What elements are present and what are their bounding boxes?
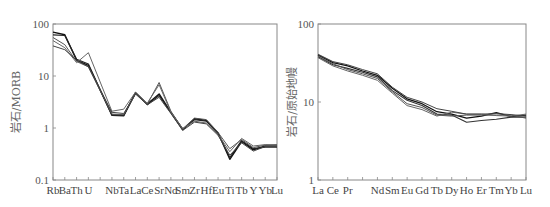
x-tick-label: Sm — [385, 184, 400, 196]
x-tick-label: Tb — [236, 184, 249, 196]
y-axis-ticks: 100101 — [298, 18, 322, 186]
x-tick-label: Er — [476, 184, 487, 196]
x-tick-label: Yb — [504, 184, 518, 196]
y-tick-label: 1 — [44, 122, 50, 134]
x-tick-label: Ti — [225, 184, 234, 196]
y-axis-label: 岩石/原始地幔 — [285, 67, 299, 137]
x-tick-label: Dy — [445, 184, 459, 196]
x-tick-label: Eu — [401, 184, 414, 196]
y-axis-ticks: 1001010.1 — [33, 18, 57, 186]
x-tick-label: Lu — [520, 184, 533, 196]
x-tick-label: Tm — [489, 184, 505, 196]
x-tick-label: Eu — [212, 184, 225, 196]
y-tick-label: 10 — [38, 70, 50, 82]
x-tick-label: Tb — [431, 184, 444, 196]
primitive-mantle-ree-diagram: 100101 LaCePrNdSmEuGdTbDyHoErTmYbLu 岩石/原… — [285, 18, 533, 196]
x-tick-label: Hf — [200, 184, 212, 196]
y-tick-label: 10 — [303, 96, 315, 108]
y-tick-label: 100 — [33, 18, 50, 30]
x-tick-label: Sm — [175, 184, 190, 196]
series-line — [318, 54, 526, 116]
series-line — [318, 55, 526, 118]
x-tick-label: Th — [70, 184, 83, 196]
x-tick-label: Sr — [154, 184, 164, 196]
x-tick-label: Nd — [371, 184, 385, 196]
y-axis-label: 岩石/MORB — [9, 71, 23, 133]
x-tick-label: Ce — [327, 184, 339, 196]
y-tick-label: 100 — [298, 18, 315, 30]
x-tick-label: U — [84, 184, 92, 196]
x-tick-label: La — [130, 184, 142, 196]
x-tick-label: Ce — [141, 184, 153, 196]
chart-canvas: 1001010.1 RbBaThUNbTaLaCeSrNdSmZrHfEuTiT… — [0, 0, 550, 207]
x-tick-label: Ta — [118, 184, 129, 196]
data-series — [53, 32, 277, 159]
x-tick-label: Lu — [271, 184, 284, 196]
data-series — [318, 54, 526, 122]
x-tick-label: Ho — [460, 184, 474, 196]
series-line — [53, 46, 277, 155]
x-tick-label: Zr — [189, 184, 200, 196]
morb-spider-diagram: 1001010.1 RbBaThUNbTaLaCeSrNdSmZrHfEuTiT… — [9, 18, 284, 196]
x-tick-label: Ba — [59, 184, 71, 196]
x-tick-label: Y — [249, 184, 257, 196]
x-tick-label: La — [312, 184, 324, 196]
x-tick-label: Nb — [105, 184, 119, 196]
x-tick-label: Pr — [343, 184, 353, 196]
x-tick-label: Gd — [415, 184, 429, 196]
